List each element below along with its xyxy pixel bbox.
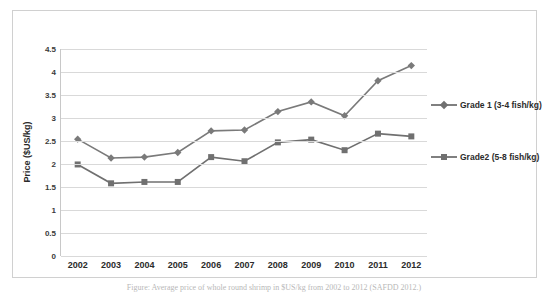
legend-key-diamond-icon [431,100,457,110]
y-tick-label: 0 [52,252,56,261]
legend-label-grade-1: Grade 1 (3-4 fish/kg) [460,100,542,110]
gridline [61,72,427,73]
data-point-marker[interactable] [141,179,147,185]
y-tick-label: 2 [52,160,56,169]
x-tick-label: 2012 [401,260,421,270]
x-tick-label: 2008 [268,260,288,270]
gridline [61,187,427,188]
y-tick-label: 1.5 [45,183,56,192]
x-tick-label: 2010 [335,260,355,270]
x-tick-label: 2004 [134,260,154,270]
y-axis-title: Price ($US/kg) [22,121,32,182]
series-canvas [61,49,428,256]
gridline [61,164,427,165]
x-tick-label: 2003 [101,260,121,270]
data-point-marker[interactable] [342,147,348,153]
data-point-marker[interactable] [375,131,381,137]
x-tick-label: 2006 [201,260,221,270]
data-point-marker[interactable] [408,62,415,69]
data-point-marker[interactable] [208,154,214,160]
y-tick-label: 0.5 [45,229,56,238]
gridline [61,210,427,211]
data-point-marker[interactable] [108,180,114,186]
gridline [61,49,427,50]
chart-frame: Price ($US/kg) 00.511.522.533.544.520022… [12,10,537,278]
y-tick-label: 1 [52,206,56,215]
gridline [61,256,427,257]
y-tick-label: 3.5 [45,91,56,100]
legend-key-square-icon [431,152,457,162]
figure-caption: Figure: Average price of whole round shr… [0,283,548,292]
x-tick-label: 2011 [368,260,388,270]
y-tick-label: 3 [52,114,56,123]
gridline [61,95,427,96]
series-line-1 [78,66,412,158]
gridline [61,141,427,142]
data-point-marker[interactable] [141,153,148,160]
y-tick-label: 2.5 [45,137,56,146]
chart-page: Price ($US/kg) 00.511.522.533.544.520022… [0,0,548,297]
x-tick-label: 2002 [68,260,88,270]
data-point-marker[interactable] [408,133,414,139]
y-tick-label: 4.5 [45,45,56,54]
gridline [61,233,427,234]
legend-label-grade-2: Grade2 (5-8 fish/kg) [460,152,539,162]
y-tick-label: 4 [52,68,56,77]
data-point-marker[interactable] [107,154,114,161]
legend-entry-grade-2[interactable]: Grade2 (5-8 fish/kg) [431,152,539,162]
data-point-marker[interactable] [274,108,281,115]
data-point-marker[interactable] [308,98,315,105]
legend-entry-grade-1[interactable]: Grade 1 (3-4 fish/kg) [431,100,542,110]
x-tick-label: 2005 [168,260,188,270]
data-point-marker[interactable] [175,179,181,185]
plot-area: 00.511.522.533.544.520022003200420052006… [60,49,427,256]
x-tick-label: 2009 [301,260,321,270]
gridline [61,118,427,119]
x-tick-label: 2007 [234,260,254,270]
data-point-marker[interactable] [241,126,248,133]
